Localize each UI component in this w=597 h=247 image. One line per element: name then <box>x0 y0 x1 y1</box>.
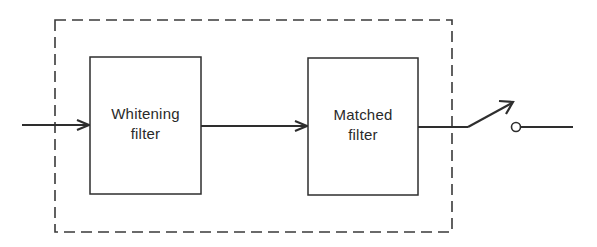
block-diagram: Whitening filter Matched filter <box>0 0 597 247</box>
whitening-filter-label-line2: filter <box>90 124 201 144</box>
matched-filter-label: Matched filter <box>308 105 418 145</box>
matched-filter-label-line1: Matched <box>308 105 418 125</box>
whitening-filter-label: Whitening filter <box>90 104 201 144</box>
matched-filter-label-line2: filter <box>308 125 418 145</box>
sampling-switch-icon <box>468 101 513 127</box>
switch-terminal-icon <box>512 123 521 132</box>
whitening-filter-label-line1: Whitening <box>90 104 201 124</box>
